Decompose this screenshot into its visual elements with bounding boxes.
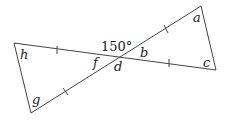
angle-g-label: g — [32, 92, 40, 107]
angle-h-label: h — [20, 47, 28, 62]
angle-d-label: d — [114, 59, 122, 74]
bowtie-triangles-figure: 150° b d f h g a c — [0, 0, 227, 121]
tick-mark-left-bottom — [63, 88, 68, 95]
angle-b-label: b — [140, 45, 148, 60]
angle-a-label: a — [193, 10, 201, 25]
angle-c-label: c — [203, 55, 211, 70]
angle-150-label: 150° — [101, 39, 132, 54]
angle-f-label: f — [92, 55, 100, 70]
diagram: 150° b d f h g a c — [0, 0, 227, 121]
